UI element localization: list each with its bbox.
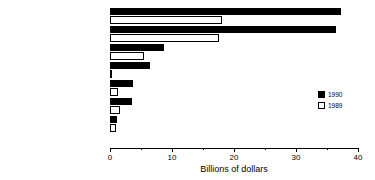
- bar-chart: TOTAL Developed United Kingdom Japan Ita…: [0, 0, 375, 180]
- x-axis-title: Billions of dollars: [110, 164, 358, 174]
- legend-label-1990: 1990: [328, 91, 342, 99]
- bar-1989-united-kingdom: [110, 52, 144, 60]
- bar-1990-italy: [110, 80, 133, 87]
- x-tick-30: [296, 148, 297, 152]
- bar-1989-total: [110, 16, 222, 24]
- bar-1990-developing: [110, 116, 117, 123]
- x-tick-label-10: 10: [168, 153, 177, 162]
- x-tick-label-40: 40: [354, 153, 363, 162]
- x-minor-tick-15: [203, 148, 204, 150]
- bar-rows: [110, 8, 358, 138]
- legend-item-1989: 1989: [318, 101, 342, 110]
- x-tick-label-0: 0: [108, 153, 112, 162]
- x-tick-label-30: 30: [292, 153, 301, 162]
- x-tick-0: [110, 148, 111, 152]
- legend-swatch-1990: [318, 91, 325, 98]
- bar-1990-developed: [110, 26, 336, 33]
- x-tick-10: [172, 148, 173, 152]
- bar-1989-developing: [110, 124, 116, 132]
- x-tick-label-20: 20: [230, 153, 239, 162]
- x-minor-tick-25: [265, 148, 266, 150]
- legend: 1990 1989: [318, 90, 342, 112]
- bar-1990-japan: [110, 62, 150, 69]
- plot-area: [110, 8, 358, 138]
- bar-1989-united-states: [110, 106, 120, 114]
- x-minor-tick-5: [141, 148, 142, 150]
- bar-1989-japan: [110, 70, 112, 78]
- x-minor-tick-35: [327, 148, 328, 150]
- x-tick-20: [234, 148, 235, 152]
- legend-label-1989: 1989: [328, 102, 342, 110]
- legend-item-1990: 1990: [318, 90, 342, 99]
- bar-1989-developed: [110, 34, 219, 42]
- bar-1990-united-states: [110, 98, 132, 105]
- bar-1990-total: [110, 8, 341, 15]
- bar-1989-italy: [110, 88, 118, 96]
- legend-swatch-1989: [318, 102, 325, 109]
- bar-1990-united-kingdom: [110, 44, 164, 51]
- x-tick-40: [358, 148, 359, 152]
